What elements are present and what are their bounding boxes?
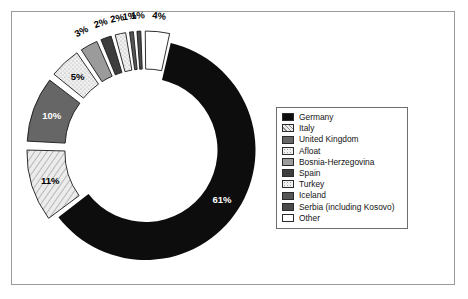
slice-data-label: 3% xyxy=(73,23,91,39)
legend-item-label: Germany xyxy=(299,113,333,121)
slice-data-label: 1% xyxy=(131,9,146,21)
legend-item[interactable]: Afloat xyxy=(282,146,403,157)
legend-item-label: Bosnia-Herzegovina xyxy=(299,158,374,166)
legend-swatch xyxy=(282,147,294,155)
legend-swatch xyxy=(282,136,294,144)
slice-data-label: 10% xyxy=(42,110,62,121)
legend-item-label: Afloat xyxy=(299,147,320,155)
slice-data-label: 61% xyxy=(212,194,232,205)
legend-item[interactable]: United Kingdom xyxy=(282,134,403,145)
slice-data-label: 5% xyxy=(71,71,85,82)
legend-item-label: Serbia (including Kosovo) xyxy=(299,203,394,211)
legend-swatch xyxy=(282,113,294,121)
chart-legend: GermanyItalyUnited KingdomAfloatBosnia-H… xyxy=(276,107,408,229)
legend-swatch xyxy=(282,158,294,166)
legend-item[interactable]: Turkey xyxy=(282,179,403,190)
legend-item-label: Other xyxy=(299,214,320,222)
legend-item[interactable]: Bosnia-Herzegovina xyxy=(282,157,403,168)
legend-item-label: Spain xyxy=(299,169,320,177)
legend-swatch xyxy=(282,124,294,132)
legend-item-label: United Kingdom xyxy=(299,135,359,143)
legend-item[interactable]: Germany xyxy=(282,112,403,123)
legend-item-label: Italy xyxy=(299,124,314,132)
legend-item[interactable]: Iceland xyxy=(282,190,403,201)
legend-item[interactable]: Italy xyxy=(282,123,403,134)
donut-slice[interactable] xyxy=(137,31,142,69)
legend-swatch xyxy=(282,203,294,211)
legend-item-label: Turkey xyxy=(299,180,324,188)
legend-item[interactable]: Other xyxy=(282,213,403,224)
legend-swatch xyxy=(282,192,294,200)
slice-data-label: 4% xyxy=(152,9,167,21)
legend-item-label: Iceland xyxy=(299,191,326,199)
legend-swatch xyxy=(282,214,294,222)
legend-swatch xyxy=(282,169,294,177)
slice-data-label: 2% xyxy=(92,15,109,30)
donut-slices xyxy=(27,31,256,260)
legend-swatch xyxy=(282,180,294,188)
legend-item[interactable]: Spain xyxy=(282,168,403,179)
slice-data-label: 11% xyxy=(41,175,60,186)
legend-item[interactable]: Serbia (including Kosovo) xyxy=(282,202,403,213)
